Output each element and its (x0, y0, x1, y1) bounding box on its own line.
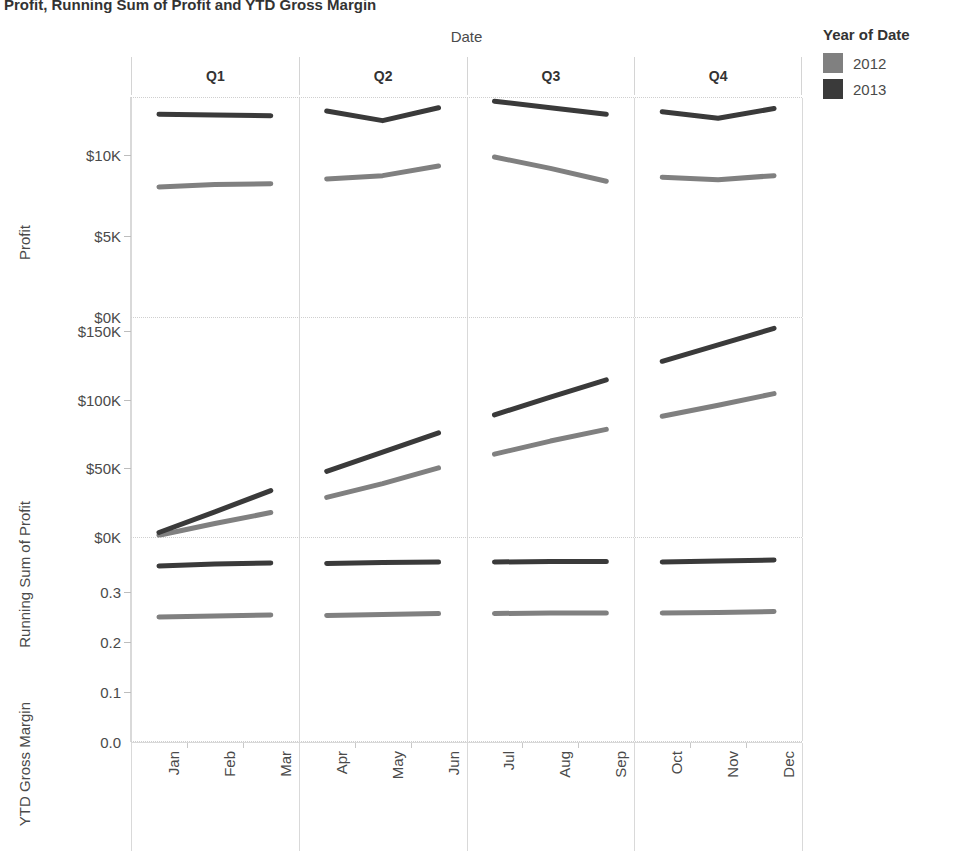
legend-swatch-icon (823, 53, 843, 73)
y-tick-mark (124, 155, 131, 156)
legend: Year of Date 20122013 (823, 26, 973, 102)
month-axis: JanFebMarAprMayJunJulAugSepOctNovDec (131, 742, 802, 853)
series-layer (131, 98, 802, 318)
quarter-header-label: Q4 (709, 68, 728, 84)
line-2013-q4[interactable] (662, 109, 774, 119)
x-tick-mark (522, 743, 523, 748)
line-2012-q2[interactable] (327, 614, 439, 616)
y-tick-label: $100K (78, 391, 121, 408)
legend-items: 20122013 (823, 50, 973, 102)
quarter-separator (467, 743, 468, 851)
legend-swatch-icon (823, 79, 843, 99)
x-tick-mark (355, 743, 356, 748)
line-2012-q3[interactable] (494, 429, 606, 454)
line-2013-q3[interactable] (494, 101, 606, 114)
y-tick-mark (124, 468, 131, 469)
legend-item-2013[interactable]: 2013 (823, 76, 973, 102)
y-tick-mark (124, 692, 131, 693)
month-label-may: May (389, 751, 406, 779)
quarter-header-q4: Q4 (634, 57, 802, 95)
line-2013-q1[interactable] (159, 563, 271, 566)
x-tick-mark (411, 743, 412, 748)
line-2012-q2[interactable] (327, 468, 439, 498)
column-axis-title: Date (131, 28, 802, 45)
line-2012-q4[interactable] (662, 612, 774, 614)
month-label-jan: Jan (165, 751, 182, 775)
y-axis-ytd-gross-margin: 0.00.10.20.3YTD Gross Margin (0, 537, 131, 742)
line-2012-q4[interactable] (662, 176, 774, 180)
panel-ytd-gross-margin (131, 537, 802, 742)
y-tick-mark (124, 400, 131, 401)
visualization-canvas: Profit, Running Sum of Profit and YTD Gr… (0, 0, 974, 862)
line-2012-q3[interactable] (494, 613, 606, 614)
y-tick-label: 0.0 (100, 734, 121, 751)
quarter-gridline (802, 318, 803, 537)
month-label-oct: Oct (668, 751, 685, 774)
line-2013-q2[interactable] (327, 108, 439, 121)
month-label-mar: Mar (277, 751, 294, 777)
x-tick-mark (187, 743, 188, 748)
y-tick-label: $150K (78, 322, 121, 339)
quarter-separator (802, 743, 803, 851)
line-2012-q1[interactable] (159, 615, 271, 617)
panel-running-sum-of-profit (131, 317, 802, 537)
y-axis-title: Profit (16, 225, 33, 260)
plot-area (131, 538, 802, 741)
quarter-header-label: Q3 (542, 68, 561, 84)
line-2013-q3[interactable] (494, 380, 606, 415)
line-2013-q2[interactable] (327, 433, 439, 472)
y-axis-title: YTD Gross Margin (16, 702, 33, 826)
y-tick-label: $5K (94, 228, 121, 245)
quarter-gridline (802, 538, 803, 741)
line-2013-q3[interactable] (494, 562, 606, 563)
month-label-feb: Feb (221, 751, 238, 777)
y-axis-running-sum-of-profit: $0K$50K$100K$150KRunning Sum of Profit (0, 317, 131, 537)
quarter-gridline (802, 98, 803, 317)
x-tick-mark (243, 743, 244, 748)
quarter-header-q1: Q1 (131, 57, 299, 95)
legend-title: Year of Date (823, 26, 973, 43)
y-tick-label: 0.3 (100, 584, 121, 601)
axis-spine (130, 537, 131, 742)
quarter-header-label: Q2 (374, 68, 393, 84)
quarter-header-label: Q1 (206, 68, 225, 84)
month-label-sep: Sep (612, 751, 629, 778)
axis-spine (130, 317, 131, 537)
y-tick-mark (124, 642, 131, 643)
line-2012-q4[interactable] (662, 394, 774, 417)
y-tick-label: 0.2 (100, 634, 121, 651)
month-label-nov: Nov (724, 751, 741, 778)
x-tick-mark (746, 743, 747, 748)
plot-area (131, 98, 802, 317)
y-tick-mark (124, 331, 131, 332)
y-axis-profit: $0K$5K$10KProfit (0, 97, 131, 317)
month-label-dec: Dec (780, 751, 797, 778)
plot-area (131, 318, 802, 537)
panel-profit (131, 97, 802, 317)
quarter-header-q3: Q3 (467, 57, 635, 95)
month-label-jun: Jun (445, 751, 462, 775)
quarter-header-q2: Q2 (299, 57, 467, 95)
series-layer (131, 538, 802, 743)
quarter-separator (634, 743, 635, 851)
page-title: Profit, Running Sum of Profit and YTD Gr… (0, 0, 810, 14)
line-2013-q2[interactable] (327, 562, 439, 564)
line-2013-q4[interactable] (662, 560, 774, 562)
legend-item-label: 2012 (853, 55, 886, 72)
y-tick-label: 0.1 (100, 684, 121, 701)
x-tick-mark (690, 743, 691, 748)
y-tick-label: $50K (86, 460, 121, 477)
line-2013-q4[interactable] (662, 328, 774, 361)
quarter-separator (299, 743, 300, 851)
legend-item-2012[interactable]: 2012 (823, 50, 973, 76)
axis-spine (130, 97, 131, 317)
legend-item-label: 2013 (853, 81, 886, 98)
line-2012-q1[interactable] (159, 184, 271, 187)
line-2013-q1[interactable] (159, 114, 271, 116)
y-tick-mark (124, 592, 131, 593)
month-label-apr: Apr (333, 751, 350, 774)
y-tick-mark (124, 236, 131, 237)
line-2012-q2[interactable] (327, 166, 439, 179)
line-2012-q3[interactable] (494, 157, 606, 181)
line-2013-q1[interactable] (159, 491, 271, 533)
